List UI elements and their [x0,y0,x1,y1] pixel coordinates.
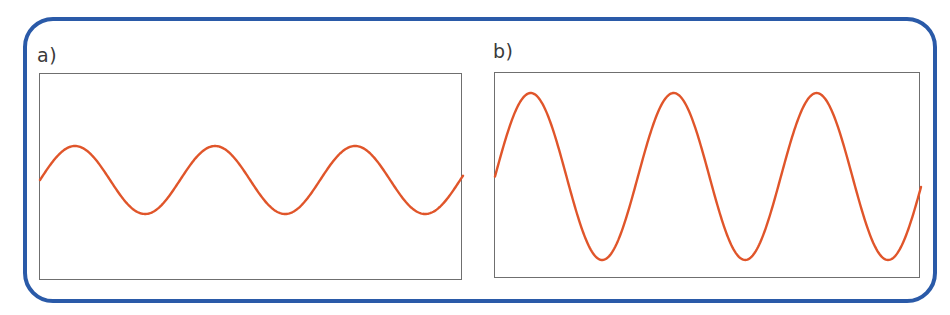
panel-a-sine-wave [40,74,463,281]
panel-b-label: b) [493,40,513,62]
panel-a-plot [39,73,462,280]
panel-a-label: a) [37,44,57,66]
panel-b-sine-wave [495,73,921,279]
panel-b-plot [494,72,920,278]
